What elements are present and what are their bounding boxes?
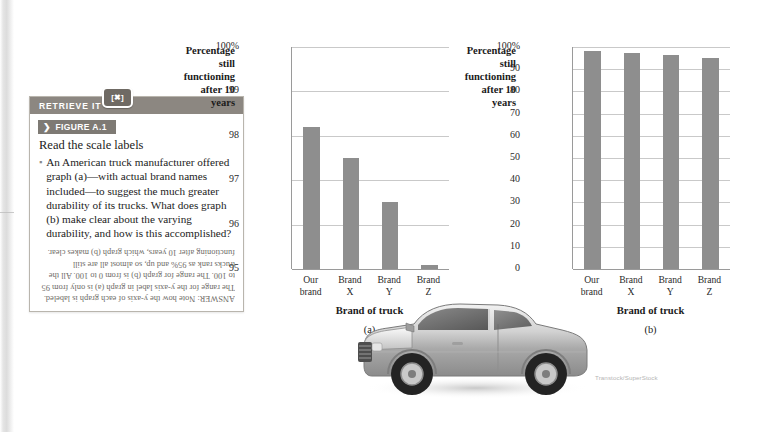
- graph-b-y-tick-label: 100%: [474, 40, 520, 51]
- photo-credit: Transtock/SuperStock: [595, 374, 658, 381]
- graph-b-y-tick-label: 30: [474, 195, 520, 206]
- graph-b-y-tick-label: 20: [474, 218, 520, 229]
- graph-b-x-tick-label: BrandZ: [690, 274, 729, 297]
- graph-b-y-tick-label: 10: [474, 240, 520, 251]
- graph-b-bar: [584, 51, 600, 269]
- graph-b-bar: [702, 58, 718, 269]
- graph-b-bar: [624, 53, 640, 269]
- graph-b-x-tick-label: BrandY: [651, 274, 690, 297]
- graph-b-gridline: [573, 47, 730, 48]
- graph-b-y-tick-label: 90: [474, 62, 520, 73]
- graph-b-y-tick-label: 0: [474, 262, 520, 273]
- graph-b-plot-area: [572, 47, 730, 269]
- graph-b-y-tick-label: 50: [474, 151, 520, 162]
- truck-photo: [348, 290, 598, 400]
- graph-b-gridline: [573, 269, 730, 270]
- graph-b-y-tick-label: 60: [474, 129, 520, 140]
- graph-b-x-tick-label: BrandX: [611, 274, 650, 297]
- graph-b-bar: [663, 55, 679, 269]
- graph-b-y-axis-title: Percentagestill functioningafter 10 year…: [464, 44, 516, 109]
- graph-b-y-tick-label: 70: [474, 107, 520, 118]
- graph-b-y-tick-label: 40: [474, 173, 520, 184]
- textbook-page: RETRIEVE IT [✖] ❯ FIGURE A.1 Read the sc…: [0, 0, 776, 432]
- graph-b-y-tick-label: 80: [474, 84, 520, 95]
